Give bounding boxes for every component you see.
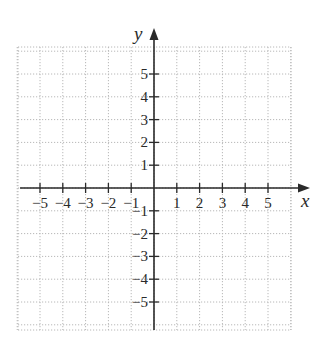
y-tick-label: −4	[132, 271, 148, 287]
y-tick-label: −2	[132, 226, 148, 242]
y-tick-label: 4	[141, 89, 149, 105]
x-tick-label: 2	[196, 195, 204, 211]
x-tick-label: −5	[32, 195, 48, 211]
y-tick-label: −5	[132, 294, 148, 310]
x-tick-label: 5	[264, 195, 272, 211]
y-tick-label: −3	[132, 248, 148, 264]
x-tick-label: 4	[241, 195, 249, 211]
x-tick-label: −3	[78, 195, 94, 211]
y-tick-label: 1	[141, 157, 149, 173]
x-tick-label: −2	[100, 195, 116, 211]
x-tick-label: 3	[219, 195, 227, 211]
x-tick-label: −4	[55, 195, 71, 211]
x-axis-label: x	[300, 190, 310, 211]
axes	[20, 28, 310, 330]
y-tick-label: 5	[141, 66, 149, 82]
coordinate-plane: −5−4−3−2−112345−5−4−3−2−112345 x y	[0, 0, 335, 346]
y-tick-label: −1	[132, 203, 148, 219]
y-tick-label: 3	[141, 112, 149, 128]
y-axis-arrow-icon	[150, 28, 159, 40]
x-tick-label: 1	[173, 195, 181, 211]
y-axis-label: y	[132, 23, 143, 44]
y-tick-label: 2	[141, 134, 149, 150]
